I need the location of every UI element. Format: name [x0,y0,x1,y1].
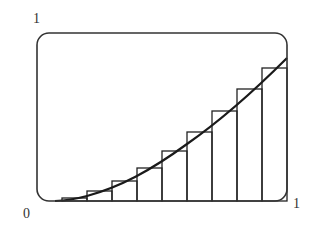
rectangle-9 [262,68,287,201]
y-max-label: 1 [33,12,40,26]
rectangle-8 [237,89,262,201]
riemann-sum-diagram [0,0,311,234]
function-curve [55,58,287,201]
rectangle-7 [212,111,237,201]
x-max-label: 1 [293,197,300,211]
origin-label: 0 [23,207,30,221]
rectangles [62,68,287,201]
rectangle-3 [112,181,137,201]
